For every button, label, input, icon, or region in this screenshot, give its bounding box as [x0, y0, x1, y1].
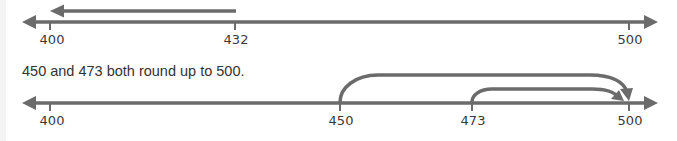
tick-label-450: 450 [329, 114, 354, 127]
round-up-arrow-473 [472, 89, 624, 102]
tick-label-400-bottom: 400 [40, 114, 65, 127]
tick-label-432: 432 [224, 33, 249, 46]
right-arrowhead-icon [644, 96, 658, 110]
right-arrowhead-icon [644, 15, 658, 29]
caption-text: 450 and 473 both round up to 500. [22, 64, 245, 79]
round-down-arrow-432 [50, 5, 236, 18]
left-arrowhead-icon [22, 15, 36, 29]
rounding-diagram: 400 432 500 450 and 473 both round up to… [0, 0, 677, 141]
top-number-line [22, 15, 658, 30]
left-arrowhead-icon [22, 96, 36, 110]
tick-label-500-top: 500 [618, 33, 643, 46]
arrowhead-icon [50, 5, 64, 18]
tick-label-400-top: 400 [40, 33, 65, 46]
tick-label-500-bottom: 500 [618, 114, 643, 127]
tick-label-473: 473 [461, 114, 486, 127]
